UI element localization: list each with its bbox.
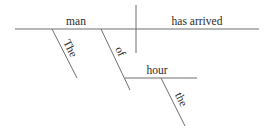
preposition-line <box>101 29 130 90</box>
preposition-word: of <box>113 44 128 58</box>
predicate-word: has arrived <box>172 15 223 27</box>
sentence-diagram: man has arrived The of hour the <box>0 0 269 136</box>
subject-word: man <box>66 15 86 27</box>
object-article-word: the <box>173 90 190 108</box>
prepositional-object-word: hour <box>146 64 167 76</box>
article-modifier-word: The <box>61 37 80 58</box>
